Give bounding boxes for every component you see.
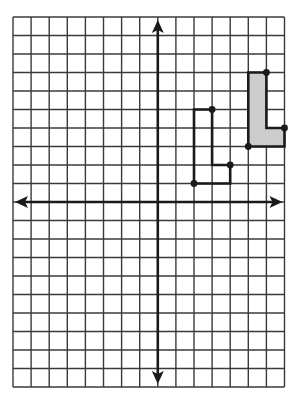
- coordinate-plane-diagram: [0, 0, 293, 402]
- vertex-point: [227, 162, 234, 169]
- axes: [15, 20, 283, 384]
- vertex-point: [281, 125, 288, 132]
- vertex-point: [245, 143, 252, 150]
- vertex-point: [191, 180, 198, 187]
- vertex-point: [263, 69, 270, 76]
- coordinate-grid: [0, 0, 293, 402]
- vertex-point: [209, 106, 216, 113]
